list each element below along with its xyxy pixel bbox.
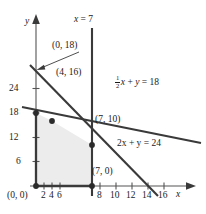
- x-axis-label: x: [176, 190, 180, 200]
- x-tick-label-14: 14: [142, 191, 152, 201]
- leader-arrowhead-0-18: [37, 65, 46, 70]
- x-tick-label-16: 16: [158, 191, 168, 201]
- fraction-numerator: 1: [115, 75, 120, 82]
- fraction-denominator: 2: [115, 82, 120, 90]
- y-tick-label-24: 24: [9, 84, 19, 94]
- x-axis-arrowhead: [186, 182, 196, 190]
- x-tick-label-12: 12: [126, 191, 136, 201]
- vertex-dot-7-0: [89, 183, 95, 189]
- point-label-0-18: (0, 18): [52, 41, 77, 51]
- x-tick-label-10: 10: [110, 191, 120, 201]
- y-axis-label: y: [25, 17, 29, 27]
- x-tick-label-2: 2: [41, 191, 46, 201]
- x-equals-7-rest: = 7: [78, 14, 93, 24]
- one-half-fraction: 1 2: [115, 75, 120, 89]
- half-eq-equals: = 18: [139, 77, 159, 87]
- vertex-dot-7-10: [89, 142, 95, 148]
- vertex-dot-0-18: [33, 110, 39, 116]
- point-label-4-16: (4, 16): [56, 68, 81, 78]
- label-line-x-equals-7: x = 7: [74, 15, 93, 25]
- label-line-half-x-plus-y: 1 2 x + y = 18: [115, 75, 159, 89]
- vertex-dot-4-16: [49, 118, 55, 124]
- vertex-dot-0-0: [33, 183, 39, 189]
- y-tick-label-6: 6: [16, 157, 21, 167]
- point-label-7-10: (7, 10): [95, 115, 120, 125]
- x-tick-label-6: 6: [57, 191, 62, 201]
- point-label-7-0: (7, 0): [92, 167, 113, 177]
- half-eq-plus: +: [125, 77, 135, 87]
- y-tick-label-12: 12: [9, 133, 19, 143]
- graph-figure: 24 18 12 6 2 4 6 8 10 12 14 16 x y (0, 0…: [0, 0, 206, 214]
- feasible-region-shading: [36, 113, 92, 186]
- x-tick-label-4: 4: [49, 191, 54, 201]
- leader-line-0-18: [41, 52, 79, 68]
- x-tick-label-8: 8: [97, 191, 102, 201]
- y-axis-arrowhead: [32, 14, 40, 24]
- coordinate-plane-svg: [0, 0, 206, 214]
- y-tick-label-18: 18: [9, 108, 19, 118]
- label-line-2x-plus-y: 2x + y = 24: [117, 139, 161, 149]
- point-label-0-0: (0, 0): [7, 191, 28, 201]
